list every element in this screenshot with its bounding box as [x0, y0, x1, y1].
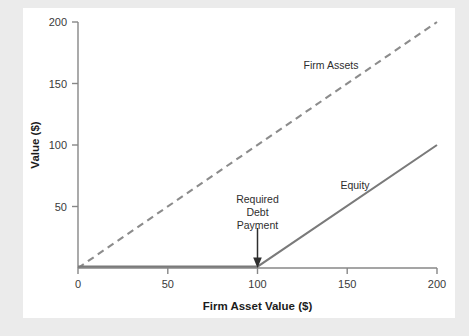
x-axis-title: Firm Asset Value ($)	[203, 300, 313, 312]
required-debt-payment-label: Required Debt Payment	[236, 193, 279, 231]
x-tick-label-150: 150	[338, 278, 356, 290]
required-debt-payment-arrow	[253, 228, 262, 268]
annotation-line-3: Payment	[237, 219, 279, 231]
annotation-line-1: Required	[236, 193, 279, 205]
x-tick-label-200: 200	[428, 278, 446, 290]
series-label-firm-assets: Firm Assets	[304, 59, 359, 71]
y-tick-label-50: 50	[55, 201, 67, 213]
x-tick-label-100: 100	[248, 278, 266, 290]
firm-assets-equity-chart: Required Debt Payment Firm Assets Equity…	[0, 0, 469, 336]
y-tick-label-150: 150	[49, 78, 67, 90]
y-axis-title: Value ($)	[29, 121, 41, 168]
y-tick-label-200: 200	[49, 16, 67, 28]
annotation-line-2: Debt	[246, 206, 268, 218]
series-label-equity: Equity	[340, 179, 370, 191]
axes-group	[72, 22, 437, 274]
y-tick-label-100: 100	[49, 139, 67, 151]
x-tick-label-50: 50	[162, 278, 174, 290]
x-tick-label-0: 0	[75, 278, 81, 290]
page-wrapper: Required Debt Payment Firm Assets Equity…	[0, 0, 469, 336]
